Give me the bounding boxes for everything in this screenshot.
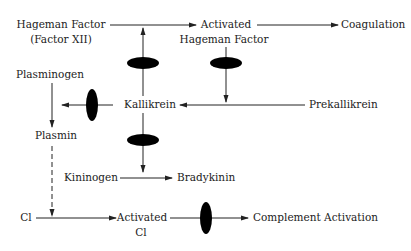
plasminogen-label: Plasminogen: [16, 68, 84, 80]
kallikrein-label: Kallikrein: [124, 98, 176, 110]
prekallikrein-label: Prekallikrein: [309, 98, 378, 110]
activated-c1-sub-label: Cl: [135, 226, 147, 238]
pathway-diagram: Hageman Factor (Factor XII) Activated Ha…: [0, 0, 411, 251]
inhibitor-marker: [200, 202, 212, 234]
complement-activation-label: Complement Activation: [253, 211, 378, 223]
bradykinin-label: Bradykinin: [177, 171, 235, 183]
inhibitor-marker: [86, 89, 98, 121]
hageman-factor-label: Hageman Factor: [17, 18, 107, 30]
plasmin-label: Plasmin: [35, 129, 77, 141]
inhibitor-marker: [127, 134, 159, 146]
activated-hageman-factor-label: Hageman Factor: [180, 33, 270, 45]
inhibitor-marker: [210, 57, 242, 69]
kininogen-label: Kininogen: [64, 171, 118, 183]
activated-label: Activated: [200, 18, 252, 30]
activated-c1-label: Activated: [116, 211, 168, 223]
factor-xii-label: (Factor XII): [30, 33, 92, 45]
coagulation-label: Coagulation: [341, 18, 406, 30]
inhibitor-marker: [127, 57, 159, 69]
c1-label: Cl: [20, 211, 32, 223]
